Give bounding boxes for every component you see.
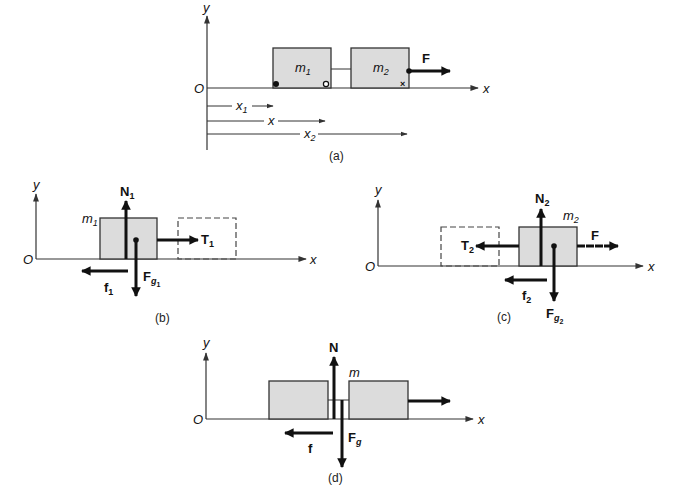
normal-force-label: N2 (535, 191, 549, 208)
gravity-force-label: Fg (348, 430, 362, 447)
origin-label: O (193, 412, 203, 427)
applied-force-label: F (591, 228, 599, 243)
caption-a: (a) (329, 149, 344, 163)
origin-label: O (194, 81, 204, 96)
y-axis-label: y (32, 177, 41, 192)
free-body-diagram-figure: y x O m1 m2 × F x1 x x2 (a) y x O m1 (0, 0, 679, 499)
friction-force-label: f1 (104, 280, 113, 297)
mass-block-2 (519, 227, 577, 266)
friction-force-label: f (308, 441, 313, 456)
x-axis-label: x (482, 81, 490, 96)
mass-block-1 (100, 218, 157, 259)
gravity-force-label: Fg2 (546, 306, 563, 325)
panel-d: y x O m N Fg f (d) (193, 335, 485, 485)
panel-b: y x O m1 N1 Fg1 T1 f1 (b) (23, 177, 317, 325)
origin-label: O (365, 259, 375, 274)
friction-force-label: f2 (522, 288, 531, 305)
normal-force-label: N1 (120, 184, 134, 201)
origin-label: O (23, 252, 33, 267)
x-axis-label: x (309, 252, 317, 267)
position-x2-label: x2 (303, 126, 316, 143)
gravity-force-label: Fg1 (143, 269, 160, 288)
position-x-label: x (267, 113, 275, 128)
x-axis-label: x (647, 259, 655, 274)
caption-b: (b) (155, 311, 170, 325)
tension-force-label: T1 (201, 232, 214, 249)
panel-a: y x O m1 m2 × F x1 x x2 (a) (194, 0, 490, 163)
panel-c: y x O m2 N2 T2 Fg2 F f2 (c) (365, 182, 655, 325)
y-axis-label: y (202, 335, 211, 350)
mass-block-left (269, 381, 328, 419)
x-axis-label: x (477, 412, 485, 427)
caption-d: (d) (328, 471, 343, 485)
open-circle-marker (323, 81, 328, 86)
y-axis-label: y (374, 182, 383, 197)
force-f-label: F (422, 51, 430, 66)
filled-dot-marker (273, 81, 279, 87)
tension-force-label: T2 (461, 238, 474, 255)
mass-2-label: m2 (563, 208, 579, 225)
mass-1-label: m1 (82, 211, 98, 228)
system-mass-label: m (349, 365, 360, 380)
y-axis-label: y (202, 0, 211, 15)
normal-force-label: N (329, 340, 338, 355)
position-x1-label: x1 (235, 98, 248, 115)
caption-c: (c) (497, 310, 511, 324)
cross-marker: × (400, 79, 405, 89)
mass-block-right (349, 381, 408, 419)
